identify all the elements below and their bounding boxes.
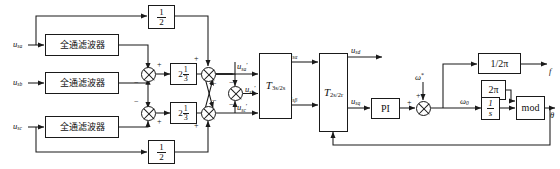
signal-label-usa-prime: usa′ xyxy=(237,62,248,72)
input-label-usa: usa xyxy=(13,40,22,50)
modulo-block[interactable]: mod xyxy=(516,96,545,120)
fraction-two-thirds-top: 2 1 3 xyxy=(178,66,189,83)
omega-zero-label: ω0 xyxy=(460,97,469,107)
sign-sum5-minus-top: − xyxy=(229,79,234,87)
fraction-one-half-bottom: 1 2 xyxy=(157,143,166,162)
summing-junction-2[interactable] xyxy=(141,106,156,121)
transform-block-3s-2s[interactable]: T3s/2s xyxy=(259,53,292,119)
sign-sum5-minus-bot: − xyxy=(229,101,234,109)
block-diagram-canvas: usa usb usc 全通滤波器 全通滤波器 全通滤波器 1 2 1 2 2 … xyxy=(0,0,560,169)
transform-block-2s-2r[interactable]: T2s/2r xyxy=(319,53,348,132)
transform-2s2r-symbol: T2s/2r xyxy=(324,87,343,98)
gain-block-two-thirds-bottom[interactable]: 2 1 3 xyxy=(170,102,197,124)
fraction-two-thirds-bottom: 2 1 3 xyxy=(178,105,189,122)
sign-sum1-minus: − xyxy=(134,79,139,87)
gain-block-one-over-two-pi[interactable]: 1/2π xyxy=(478,53,521,74)
gain-block-one-half-top[interactable]: 1 2 xyxy=(148,5,175,29)
output-label-frequency: f xyxy=(549,67,551,76)
integrator-block[interactable]: 1 s xyxy=(481,97,500,120)
sign-sum1-plus: + xyxy=(157,61,162,69)
summing-junction-5[interactable] xyxy=(228,86,243,101)
signal-label-us-d: usd xyxy=(351,46,360,56)
all-pass-filter-b[interactable]: 全通滤波器 xyxy=(45,72,119,94)
output-label-theta: θ xyxy=(550,111,554,120)
sign-sum4-plus: + xyxy=(194,122,199,130)
pi-controller-block[interactable]: PI xyxy=(371,98,400,119)
omega-reference-label: ω* xyxy=(415,72,424,81)
sign-sum2-plus: + xyxy=(157,118,162,126)
gain-block-two-thirds-top[interactable]: 2 1 3 xyxy=(170,63,197,85)
sign-sum6-plus-left: + xyxy=(407,99,412,107)
input-label-usb: usb xyxy=(13,78,22,88)
summing-junction-4[interactable] xyxy=(201,106,216,121)
signal-label-usb-prime: usb′ xyxy=(245,85,256,95)
gain-block-one-half-bottom[interactable]: 1 2 xyxy=(148,140,175,164)
summing-junction-6[interactable] xyxy=(416,101,431,116)
sign-sum6-plus-top: + xyxy=(416,92,421,100)
sign-sum3-minus: − xyxy=(212,80,217,88)
sign-sum3-plus: + xyxy=(194,55,199,63)
signal-label-us-q: usq xyxy=(351,97,360,107)
sign-sum2-minus: − xyxy=(134,98,139,106)
summing-junction-1[interactable] xyxy=(141,67,156,82)
all-pass-filter-c[interactable]: 全通滤波器 xyxy=(45,116,119,138)
sign-sum4-minus: − xyxy=(212,97,217,105)
transform-3s2s-symbol: T3s/2s xyxy=(266,80,286,91)
signal-label-usc-prime: usc′ xyxy=(237,103,247,113)
fraction-one-half-top: 1 2 xyxy=(157,8,166,27)
all-pass-filter-a[interactable]: 全通滤波器 xyxy=(45,34,119,56)
input-label-usc: usc xyxy=(13,122,22,132)
fraction-one-over-s: 1 s xyxy=(486,99,495,118)
